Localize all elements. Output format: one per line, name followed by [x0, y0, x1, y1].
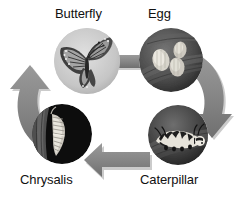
- cycle-arrows: [0, 0, 242, 197]
- stage-label-butterfly: Butterfly: [55, 7, 102, 21]
- butterfly-photo: [54, 28, 120, 94]
- stage-label-chrysalis: Chrysalis: [20, 173, 73, 187]
- stage-label-egg: Egg: [148, 7, 171, 21]
- butterfly-life-cycle-diagram: Butterfly Egg Caterpillar Chrysalis: [0, 0, 242, 197]
- caterpillar-photo: [148, 105, 208, 165]
- stage-label-caterpillar: Caterpillar: [140, 173, 198, 187]
- chrysalis-photo: [32, 104, 92, 164]
- egg-photo: [139, 28, 203, 92]
